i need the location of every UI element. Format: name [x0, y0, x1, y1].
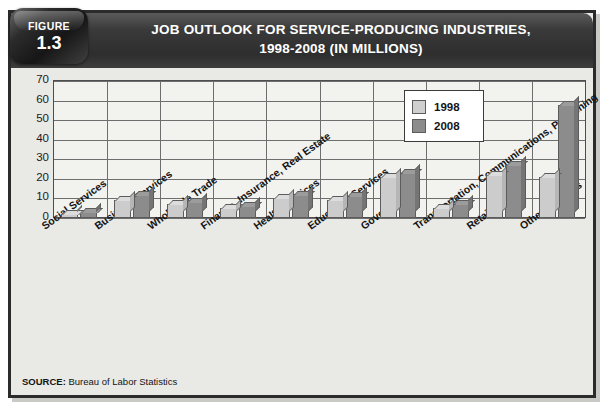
bar-1998 [220, 208, 237, 218]
bar-2008 [399, 173, 416, 218]
bar-1998 [273, 198, 290, 218]
bar-1998 [167, 204, 184, 218]
legend-item-2008[interactable]: 2008 [412, 116, 476, 135]
bar-1998 [486, 175, 503, 218]
bar-group [320, 81, 373, 218]
title-line-1: JOB OUTLOOK FOR SERVICE-PRODUCING INDUST… [106, 20, 576, 39]
legend-label-1998: 1998 [434, 101, 460, 113]
y-axis-tick-70: 70 [19, 73, 49, 85]
bar-side-face [521, 156, 526, 212]
x-axis-labels: Social ServicesBusiness ServicesWholesal… [11, 218, 593, 368]
bar-1998 [327, 200, 344, 218]
y-axis-tick-40: 40 [19, 132, 49, 144]
bar-group [107, 81, 160, 218]
title-line-2: 1998-2008 (IN MILLIONS) [106, 39, 576, 58]
y-axis: 706050403020100 [15, 80, 49, 218]
bar-side-face [202, 193, 207, 212]
bar-2008 [133, 195, 150, 218]
bar-side-face [255, 197, 260, 212]
figure-badge-number: 1.3 [10, 33, 88, 54]
figure-header-bar: JOB OUTLOOK FOR SERVICE-PRODUCING INDUST… [11, 13, 593, 68]
figure-number-badge: FIGURE 1.3 [10, 8, 88, 64]
category-separator [532, 81, 533, 218]
page-title: JOB OUTLOOK FOR SERVICE-PRODUCING INDUST… [106, 20, 576, 58]
category-separator [266, 81, 267, 218]
bar-1998 [61, 214, 78, 218]
bar-side-face [468, 195, 473, 212]
bar-2008 [452, 204, 469, 218]
chart-area: 706050403020100 19982008 Social Services… [11, 68, 593, 375]
source-note: SOURCE: Bureau of Labor Statistics [22, 376, 177, 387]
source-label: SOURCE: [22, 376, 66, 387]
category-separator [107, 81, 108, 218]
source-value: Bureau of Labor Statistics [66, 376, 177, 387]
category-separator [213, 81, 214, 218]
legend-swatch-1998 [412, 100, 426, 114]
bar-side-face [362, 187, 367, 212]
bar-2008 [239, 206, 256, 218]
category-separator [160, 81, 161, 218]
category-separator [320, 81, 321, 218]
bar-side-face [555, 168, 560, 212]
bar-1998 [380, 177, 397, 218]
bar-1998 [114, 200, 131, 218]
chart-legend: 19982008 [404, 90, 484, 142]
bar-1998 [433, 208, 450, 218]
y-axis-tick-10: 10 [19, 190, 49, 202]
figure-badge-label: FIGURE [10, 20, 88, 32]
legend-swatch-2008 [412, 119, 426, 133]
bar-2008 [292, 195, 309, 218]
y-axis-tick-60: 60 [19, 93, 49, 105]
bar-1998 [539, 177, 556, 218]
bar-group [532, 81, 585, 218]
category-separator [373, 81, 374, 218]
y-axis-tick-30: 30 [19, 151, 49, 163]
bar-2008 [80, 212, 97, 218]
bar-top-face [81, 208, 103, 213]
bar-side-face [149, 186, 154, 212]
bar-2008 [186, 202, 203, 218]
bar-side-face [574, 96, 579, 213]
legend-label-2008: 2008 [434, 120, 460, 132]
figure-root: JOB OUTLOOK FOR SERVICE-PRODUCING INDUST… [0, 0, 608, 417]
bars-layer [54, 81, 585, 218]
bar-side-face [308, 186, 313, 212]
y-axis-tick-20: 20 [19, 171, 49, 183]
bar-side-face [502, 166, 507, 212]
legend-item-1998[interactable]: 1998 [412, 97, 476, 116]
bar-side-face [415, 164, 420, 212]
bar-side-face [396, 168, 401, 212]
bar-2008 [346, 196, 363, 218]
bar-group [160, 81, 213, 218]
bar-2008 [558, 105, 575, 219]
y-axis-tick-50: 50 [19, 112, 49, 124]
bar-2008 [505, 165, 522, 218]
